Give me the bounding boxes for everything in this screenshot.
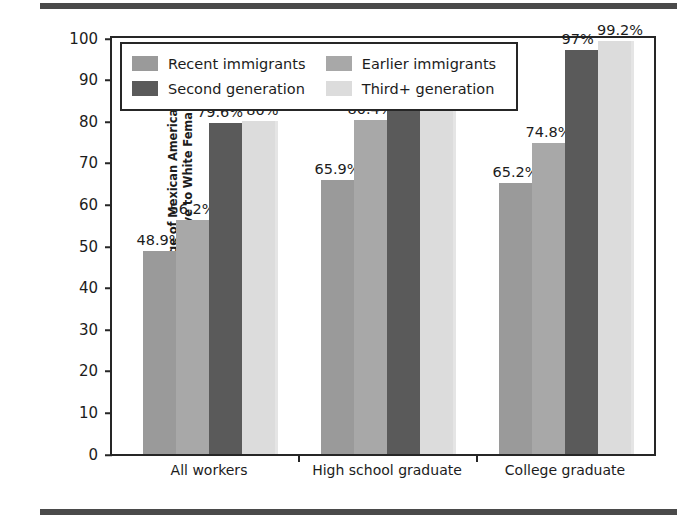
y-axis-tick-mark	[105, 38, 112, 40]
y-axis-tick-mark	[105, 371, 112, 373]
y-axis-tick: 0	[88, 444, 112, 464]
y-axis-tick-label: 70	[79, 155, 105, 173]
legend-row: Second generation Third+ generation	[132, 76, 506, 101]
bar-value-label: 99.2%	[597, 22, 643, 38]
y-axis-tick: 20	[79, 361, 112, 381]
legend-item-earlier-immigrants: Earlier immigrants	[326, 56, 506, 72]
legend-row: Recent immigrants Earlier immigrants	[132, 51, 506, 76]
legend-swatch-icon	[132, 56, 158, 71]
y-axis-tick: 60	[79, 195, 112, 215]
legend-swatch-icon	[326, 56, 352, 71]
bar[interactable]: 65.9%	[321, 180, 354, 454]
bar[interactable]: 97%	[565, 50, 598, 454]
x-axis-separator-tick	[476, 454, 478, 462]
chart-legend: Recent immigrants Earlier immigrants Sec…	[120, 42, 518, 111]
x-axis-category-label: High school graduate	[312, 462, 462, 478]
legend-label: Third+ generation	[362, 81, 495, 97]
plot-frame: Percentage of Mexican American Female Wa…	[110, 36, 656, 456]
legend-label: Recent immigrants	[168, 56, 306, 72]
bar[interactable]: 79.6%	[209, 123, 242, 454]
bar-group: 65.2%74.8%97%99.2%	[499, 38, 631, 454]
legend-swatch-icon	[132, 81, 158, 96]
legend-label: Earlier immigrants	[362, 56, 496, 72]
y-axis-tick: 100	[69, 28, 112, 48]
y-axis-tick-mark	[105, 329, 112, 331]
bar-chart-figure: Percentage of Mexican American Female Wa…	[0, 0, 687, 522]
bar[interactable]: 80%	[242, 121, 275, 454]
y-axis-tick-mark	[105, 204, 112, 206]
y-axis-tick: 80	[79, 111, 112, 131]
y-axis-tick-label: 60	[79, 196, 105, 214]
bar-value-label: 97%	[562, 31, 594, 47]
y-axis-tick-mark	[105, 454, 112, 456]
y-axis-tick-label: 30	[79, 321, 105, 339]
bar-slot: 97%	[565, 38, 598, 454]
y-axis-tick-label: 80	[79, 113, 105, 131]
legend-item-second-generation: Second generation	[132, 81, 326, 97]
y-axis-tick-label: 0	[88, 446, 105, 464]
x-axis-category-label: All workers	[171, 462, 248, 478]
y-axis-tick-mark	[105, 121, 112, 123]
bar[interactable]: 99.2%	[598, 41, 631, 454]
y-axis-tick-label: 20	[79, 363, 105, 381]
y-axis-tick-label: 90	[79, 71, 105, 89]
y-axis-tick-mark	[105, 412, 112, 414]
y-axis-tick-mark	[105, 79, 112, 81]
y-axis-tick-label: 100	[69, 30, 105, 48]
y-axis-tick: 30	[79, 319, 112, 339]
y-axis-tick-label: 50	[79, 238, 105, 256]
y-axis-tick: 40	[79, 278, 112, 298]
legend-item-third-generation: Third+ generation	[326, 81, 506, 97]
y-axis-tick-mark	[105, 246, 112, 248]
bar[interactable]: 56.2%	[176, 220, 209, 454]
x-axis-separator-tick	[298, 454, 300, 462]
y-axis-tick: 90	[79, 70, 112, 90]
bar[interactable]: 88.2%	[387, 87, 420, 454]
bar-slot: 74.8%	[532, 38, 565, 454]
bar[interactable]: 48.9%	[143, 251, 176, 454]
bar[interactable]: 65.2%	[499, 183, 532, 454]
x-axis-category-label: College graduate	[505, 462, 625, 478]
y-axis-tick: 70	[79, 153, 112, 173]
bar[interactable]: 90.1%	[420, 79, 453, 454]
legend-swatch-icon	[326, 81, 352, 96]
y-axis-tick: 50	[79, 236, 112, 256]
bar[interactable]: 74.8%	[532, 143, 565, 454]
y-axis-tick-mark	[105, 287, 112, 289]
y-axis-tick: 10	[79, 403, 112, 423]
legend-item-recent-immigrants: Recent immigrants	[132, 56, 326, 72]
y-axis-tick-mark	[105, 163, 112, 165]
bar[interactable]: 80.4%	[354, 120, 387, 454]
y-axis-tick-label: 10	[79, 404, 105, 422]
legend-label: Second generation	[168, 81, 305, 97]
y-axis-tick-label: 40	[79, 279, 105, 297]
bar-slot: 99.2%	[598, 38, 631, 454]
